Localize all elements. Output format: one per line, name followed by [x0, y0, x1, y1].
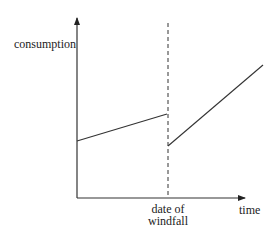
consumption-after-line	[168, 65, 263, 146]
consumption-before-line	[77, 114, 167, 141]
y-axis-label: consumption	[14, 37, 76, 51]
x-axis-label: time	[239, 203, 260, 217]
windfall-label-line2: windfall	[148, 214, 189, 228]
consumption-windfall-diagram: consumption time date of windfall	[0, 0, 276, 234]
